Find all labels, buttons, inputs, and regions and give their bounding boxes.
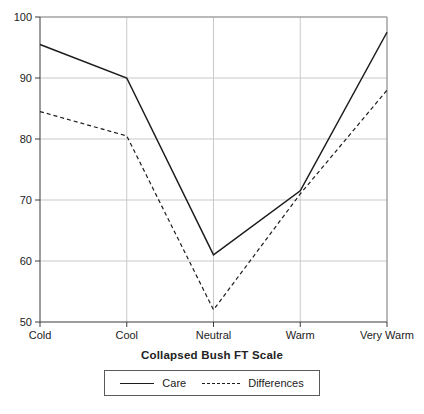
x-tick-label: Cool (115, 329, 138, 341)
legend-label-differences: Differences (248, 377, 303, 389)
x-axis-title: Collapsed Bush FT Scale (0, 349, 424, 361)
y-tick-label: 70 (20, 194, 32, 206)
line-chart-figure: 5060708090100ColdCoolNeutralWarmVery War… (0, 0, 424, 396)
x-tick-label: Warm (286, 329, 315, 341)
x-tick-label: Neutral (196, 329, 231, 341)
y-tick-label: 60 (20, 255, 32, 267)
solid-line-icon (120, 383, 154, 384)
y-tick-label: 100 (14, 11, 32, 23)
y-tick-label: 50 (20, 316, 32, 328)
y-tick-label: 80 (20, 133, 32, 145)
legend-item-care: Care (120, 377, 186, 389)
x-tick-label: Cold (29, 329, 52, 341)
legend-label-care: Care (162, 377, 186, 389)
dashed-line-icon (202, 383, 240, 384)
legend: Care Differences (0, 370, 424, 396)
legend-item-differences: Differences (202, 377, 303, 389)
x-tick-label: Very Warm (360, 329, 414, 341)
y-tick-label: 90 (20, 72, 32, 84)
legend-box: Care Differences (104, 370, 319, 396)
plot-area: 5060708090100ColdCoolNeutralWarmVery War… (0, 0, 424, 345)
